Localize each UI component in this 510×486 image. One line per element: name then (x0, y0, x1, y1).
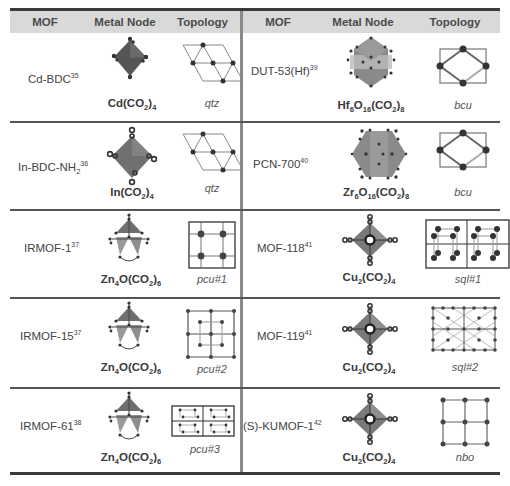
mof-name: In-BDC-NH236 (18, 160, 88, 176)
reference-number: 38 (74, 419, 82, 426)
sql1-net-icon (425, 219, 510, 269)
metal-node-formula: Zn4O(CO2)6 (99, 451, 163, 466)
table-row: IRMOF-137 Zn4O(CO2)6 pcu#1 MOF-11841 (10, 211, 500, 297)
pcu3-net-icon (171, 405, 235, 437)
topology-label: sql#1 (430, 273, 506, 285)
mof-name: PCN-70040 (253, 157, 308, 170)
reference-number: 41 (305, 329, 313, 336)
topology-label: bcu (430, 186, 496, 198)
table-row: Cd-BDC35 Cd(CO2)4 qtz DUT-53(Hf)39 (10, 33, 500, 121)
reference-number: 35 (71, 72, 79, 79)
mof-name: IRMOF-137 (24, 241, 79, 254)
topology-label: sql#2 (430, 361, 500, 373)
header-metal-node-left: Metal Node (80, 11, 170, 33)
cu-paddlewheel-icon (340, 392, 400, 446)
topology-label: nbo (430, 451, 500, 463)
metal-node-formula: Cu2(CO2)4 (336, 361, 402, 376)
mof-name-text: DUT-53(Hf) (251, 65, 310, 77)
mof-name-text: In-BDC-NH (18, 161, 76, 173)
topology-label: bcu (430, 99, 496, 111)
mof-name: DUT-53(Hf)39 (251, 64, 318, 77)
header-mof-right: MOF (243, 11, 313, 33)
metal-node-formula: Zn4O(CO2)6 (99, 273, 163, 288)
topology-label: qtz (180, 97, 244, 109)
mof-name: IRMOF-1537 (20, 329, 81, 342)
mof-name-text: IRMOF-15 (20, 330, 74, 342)
topology-label: qtz (180, 182, 244, 194)
mof-name: (S)-KUMOF-142 (243, 419, 322, 432)
bcu-net-icon (435, 45, 491, 87)
mof-name: IRMOF-6138 (20, 419, 81, 432)
table-row: IRMOF-1537 Zn4O(CO2)6 pcu#2 MOF-11941 (10, 299, 500, 387)
cu-paddlewheel-icon (340, 213, 400, 267)
pcu2-net-icon (186, 309, 236, 359)
pcu1-net-icon (188, 221, 236, 269)
mof-name: MOF-11841 (257, 241, 313, 254)
topology-label: pcu#1 (180, 273, 244, 285)
qtz-net-icon (181, 41, 245, 85)
cu-paddlewheel-icon (340, 302, 400, 356)
metal-node-formula: Zn4O(CO2)6 (99, 361, 163, 376)
header-topology-left: Topology (165, 11, 240, 33)
mof-name-text: IRMOF-1 (24, 242, 71, 254)
mof-name-text: IRMOF-61 (20, 420, 74, 432)
reference-number: 36 (80, 160, 88, 167)
mof-name: Cd-BDC35 (28, 72, 79, 85)
zn4o-cluster-icon (106, 391, 152, 443)
mof-name: MOF-11941 (257, 329, 313, 342)
zn4o-cluster-icon (106, 213, 152, 265)
metal-node-formula: Cu2(CO2)4 (336, 271, 402, 286)
bcu-net-icon (435, 129, 491, 171)
metal-node-formula: Zr6O16(CO2)8 (336, 186, 416, 201)
mof-name-text: Cd-BDC (28, 73, 71, 85)
reference-number: 37 (74, 329, 82, 336)
reference-number: 40 (300, 157, 308, 164)
subscript: 2 (76, 167, 80, 176)
mof-name-text: MOF-118 (257, 242, 305, 254)
nbo-net-icon (440, 397, 490, 447)
table-header: MOF Metal Node Topology MOF Metal Node T… (10, 11, 500, 33)
zr6-cluster-icon (348, 127, 410, 181)
mof-topology-table: MOF Metal Node Topology MOF Metal Node T… (10, 8, 500, 474)
metal-node-formula: In(CO2)4 (102, 186, 162, 201)
reference-number: 39 (310, 64, 318, 71)
in-node-icon (102, 126, 162, 186)
table-row: In-BDC-NH236 In(CO2)4 qtz PCN-70040 (10, 123, 500, 209)
hf6-cluster-icon (344, 35, 398, 89)
mof-name-text: (S)-KUMOF-1 (243, 420, 314, 432)
metal-node-formula: Hf6O16(CO2)8 (331, 99, 411, 114)
cd-paddle-node-icon (110, 36, 150, 82)
zn4o-cluster-icon (106, 301, 152, 353)
mof-name-text: PCN-700 (253, 158, 300, 170)
table-row: IRMOF-6138 Zn4O(CO2)6 pcu#3 (S)-KUMOF-14… (10, 389, 500, 472)
bottom-rule (10, 472, 500, 475)
topology-label: pcu#3 (173, 443, 237, 455)
metal-node-formula: Cd(CO2)4 (102, 97, 162, 112)
reference-number: 42 (314, 419, 322, 426)
metal-node-formula: Cu2(CO2)4 (336, 451, 402, 466)
header-mof-left: MOF (10, 11, 80, 33)
reference-number: 41 (305, 241, 313, 248)
sql2-net-icon (431, 306, 497, 352)
header-metal-node-right: Metal Node (313, 11, 413, 33)
mof-name-text: MOF-119 (257, 330, 305, 342)
reference-number: 37 (71, 241, 79, 248)
topology-label: pcu#2 (180, 363, 244, 375)
qtz-net-icon (181, 130, 245, 174)
header-topology-right: Topology (410, 11, 500, 33)
